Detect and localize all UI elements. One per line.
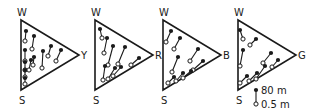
filled-marker-80m [111,44,115,48]
open-marker-05m [248,43,252,47]
open-marker-05m [241,37,245,41]
depth-segment [164,29,173,44]
vertex-label-bottom: S [19,95,25,106]
depth-segment [46,44,53,58]
filled-marker-80m [32,55,36,59]
filled-marker-80m [245,74,249,78]
depth-segment [54,48,63,63]
filled-marker-80m [189,69,193,73]
open-marker-05m [102,51,106,55]
open-marker-05m [181,76,185,80]
open-marker-05m [40,66,44,70]
depth-segment [106,44,115,67]
triangle-outline [238,20,296,90]
filled-marker-80m [24,29,28,33]
depth-segment [40,49,45,70]
filled-marker-80m [41,49,45,53]
open-marker-05m [247,79,251,83]
vertex-label-top: W [91,7,101,18]
open-marker-05m [23,82,27,86]
filled-marker-80m [59,48,63,52]
depth-segment [248,37,258,47]
open-marker-05m [101,78,105,82]
open-marker-05m [46,54,50,58]
filled-marker-80m [105,36,109,40]
filled-marker-80m [137,56,141,60]
open-marker-05m [54,59,58,63]
open-marker-05m [164,40,168,44]
vertex-label-right: B [223,50,230,61]
open-marker-05m [270,65,274,69]
legend-label-80m: 80 m [261,85,287,96]
open-marker-05m [238,64,242,68]
filled-marker-80m [49,44,53,48]
open-marker-05m [100,36,104,40]
ternary-diagram: WSYWSRWSBWSG80 m0.5 m [0,0,316,111]
open-marker-05m [111,74,115,78]
filled-marker-80m [263,64,267,68]
filled-marker-80m [29,58,33,62]
filled-marker-80m [176,55,180,59]
depth-segment [172,36,182,51]
open-marker-05m [106,77,110,81]
open-marker-05m [254,77,258,81]
legend-filled-marker [254,88,258,92]
filled-marker-80m [276,58,280,62]
filled-marker-80m [123,45,127,49]
filled-marker-80m [113,66,117,70]
vertex-label-right: Y [80,50,88,61]
filled-marker-80m [181,71,185,75]
open-marker-05m [174,79,178,83]
filled-marker-80m [119,65,123,69]
open-marker-05m [170,70,174,74]
filled-marker-80m [178,36,182,40]
open-marker-05m [188,59,192,63]
depth-segment [23,29,28,43]
vertex-label-right: G [298,50,306,61]
depth-segment [188,47,200,63]
depth-segment [238,48,245,68]
vertex-label-right: R [155,50,162,61]
filled-marker-80m [241,48,245,52]
vertex-label-top: W [159,7,169,18]
filled-marker-80m [23,60,27,64]
open-marker-05m [172,47,176,51]
open-marker-05m [238,81,242,85]
filled-marker-80m [32,34,36,38]
filled-marker-80m [103,64,107,68]
filled-marker-80m [23,48,27,52]
depth-segment [30,34,36,51]
filled-marker-80m [238,28,242,32]
filled-marker-80m [201,59,205,63]
legend-label-05m: 0.5 m [261,99,290,110]
depth-segment [261,51,273,65]
open-marker-05m [116,62,120,66]
legend: 80 m0.5 m [254,85,290,110]
vertex-label-top: W [234,7,244,18]
depth-segment [98,27,104,40]
depth-segment [170,55,180,74]
filled-marker-80m [254,37,258,41]
vertex-label-bottom: S [161,95,167,106]
open-marker-05m [31,63,35,67]
triangle-panel-y: WSY [17,7,88,106]
filled-marker-80m [269,51,273,55]
triangle-panel-r: WSR [91,7,162,106]
filled-marker-80m [98,27,102,31]
depth-segment [23,76,27,86]
vertex-label-bottom: S [236,95,242,106]
open-marker-05m [129,63,133,67]
vertex-label-bottom: S [93,95,99,106]
legend-open-marker [254,102,258,106]
triangle-panel-b: WSB [159,7,230,106]
filled-marker-80m [196,47,200,51]
open-marker-05m [166,81,170,85]
open-marker-05m [23,39,27,43]
depth-segment [116,45,127,66]
vertex-label-top: W [17,7,27,18]
filled-marker-80m [23,76,27,80]
filled-marker-80m [169,29,173,33]
depth-segment [238,28,245,41]
open-marker-05m [27,68,31,72]
open-marker-05m [30,47,34,51]
